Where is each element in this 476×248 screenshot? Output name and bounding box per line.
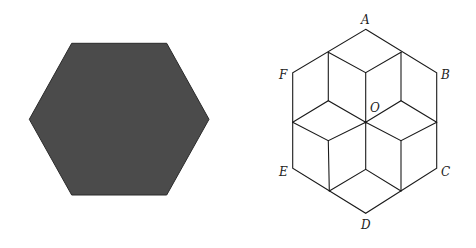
inner-edge bbox=[293, 122, 366, 140]
filled-hexagon bbox=[29, 43, 209, 195]
rhombus-hexagon bbox=[293, 29, 437, 213]
inner-edge bbox=[328, 52, 401, 72]
label-a: A bbox=[360, 13, 370, 27]
inner-edge bbox=[329, 169, 401, 191]
label-d: D bbox=[360, 218, 371, 232]
label-o: O bbox=[370, 101, 380, 115]
center-point-o bbox=[364, 121, 367, 124]
figure-canvas: A B C D E F O bbox=[0, 0, 476, 248]
inner-edge bbox=[293, 101, 366, 123]
label-c: C bbox=[441, 165, 450, 179]
inner-edge bbox=[328, 141, 329, 191]
label-e: E bbox=[278, 165, 288, 179]
label-b: B bbox=[440, 68, 450, 82]
label-f: F bbox=[278, 68, 288, 82]
inner-edge bbox=[366, 122, 437, 140]
